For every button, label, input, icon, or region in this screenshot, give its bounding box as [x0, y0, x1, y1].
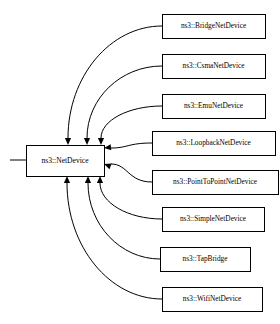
inheritance-diagram: ns3::NetDevicens3::BridgeNetDevicens3::C… [0, 0, 280, 324]
class-name-label: ns3::WifiNetDevice [183, 294, 241, 303]
class-box-wifi[interactable]: ns3::WifiNetDevice [163, 288, 263, 312]
class-name-label: ns3::NetDevice [41, 156, 89, 165]
inheritance-edge-wifi [67, 183, 162, 299]
class-box-pointtopoint[interactable]: ns3::PointToPointNetDevice [153, 171, 279, 195]
arrowhead-emu [98, 138, 104, 145]
inheritance-edge-csma [87, 66, 162, 138]
class-box-loopback[interactable]: ns3::LoopbackNetDevice [153, 132, 276, 156]
class-box-tapbridge[interactable]: ns3::TapBridge [161, 248, 251, 272]
diagram-canvas: ns3::NetDevicens3::BridgeNetDevicens3::C… [0, 0, 280, 324]
inheritance-edge-tapbridge [88, 183, 160, 259]
arrowhead-simple [97, 176, 103, 183]
arrowhead-tapbridge [85, 176, 91, 183]
class-box-emu[interactable]: ns3::EmuNetDevice [163, 95, 266, 119]
arrowhead-bridge [65, 138, 71, 145]
nodes-layer: ns3::NetDevicens3::BridgeNetDevicens3::C… [27, 15, 279, 312]
inheritance-edge-pointtopoint [111, 164, 152, 182]
class-box-bridge[interactable]: ns3::BridgeNetDevice [163, 15, 266, 39]
arrowhead-loopback [104, 144, 111, 150]
arrowhead-csma [84, 138, 90, 145]
arrowhead-wifi [64, 176, 70, 183]
class-name-label: ns3::EmuNetDevice [184, 101, 243, 110]
arrowhead-pointtopoint [104, 164, 112, 170]
class-box-base[interactable]: ns3::NetDevice [27, 146, 105, 177]
class-name-label: ns3::SimpleNetDevice [180, 214, 246, 223]
class-name-label: ns3::LoopbackNetDevice [176, 138, 251, 147]
class-box-csma[interactable]: ns3::CsmaNetDevice [163, 55, 266, 79]
class-name-label: ns3::CsmaNetDevice [182, 61, 244, 70]
inheritance-edge-loopback [111, 143, 152, 148]
class-name-label: ns3::PointToPointNetDevice [173, 177, 257, 186]
class-box-simple[interactable]: ns3::SimpleNetDevice [163, 208, 265, 232]
class-name-label: ns3::BridgeNetDevice [181, 21, 246, 30]
class-name-label: ns3::TapBridge [183, 254, 228, 263]
